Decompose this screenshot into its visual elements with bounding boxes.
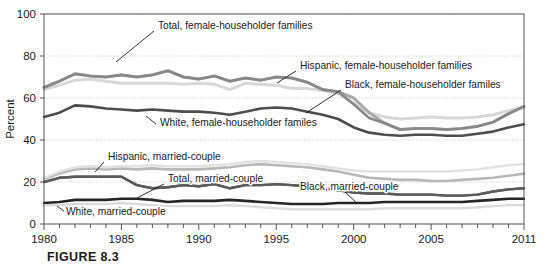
annotation-label-4: Hispanic, married-couple — [108, 151, 221, 162]
x-tick-label-1990: 1990 — [186, 233, 212, 245]
figure-caption: FIGURE 8.3 — [47, 250, 119, 264]
annotation-label-5: Total, married-couple — [168, 173, 263, 184]
figure-container: 1980198519901995200020052011 02040608010… — [0, 0, 553, 275]
x-tick-label-1995: 1995 — [263, 233, 289, 245]
annotation-label-2: Black, female-householder familes — [345, 79, 501, 90]
x-tick-label-2000: 2000 — [341, 233, 367, 245]
y-axis-title-text: Percent — [4, 98, 16, 138]
x-tick-label-2011: 2011 — [512, 233, 537, 245]
annotation-label-7: White, married-couple — [66, 206, 166, 217]
y-tick-label-20: 20 — [23, 176, 36, 188]
y-tick-label-100: 100 — [17, 8, 36, 20]
annotation-label-3: White, female-householder familes — [160, 117, 317, 128]
annotation-label-1: Hispanic, female-householder families — [300, 60, 472, 71]
y-tick-label-60: 60 — [23, 92, 36, 104]
y-tick-label-0: 0 — [30, 218, 36, 230]
x-tick-label-1980: 1980 — [31, 233, 57, 245]
x-tick-label-2005: 2005 — [418, 233, 444, 245]
y-tick-label-40: 40 — [23, 134, 36, 146]
annotation-label-0: Total, female-householder families — [158, 20, 313, 31]
line-chart: 1980198519901995200020052011 02040608010… — [0, 0, 553, 275]
y-axis-title: Percent — [4, 98, 16, 138]
y-tick-label-80: 80 — [23, 50, 36, 62]
annotation-label-6: Black, married-couple — [300, 181, 399, 192]
x-tick-label-1985: 1985 — [109, 233, 135, 245]
